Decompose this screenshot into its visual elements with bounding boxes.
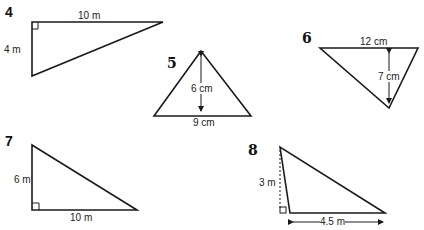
label-5-base: 9 cm: [193, 117, 215, 128]
label-8-height: 3 m: [259, 177, 276, 188]
triangle-worksheet: 4 5 6 7 8 10 m 4 m 6 cm 9 cm 12 cm 7 cm …: [0, 0, 424, 230]
label-5-height: 6 cm: [191, 83, 213, 94]
label-8-base: 4.5 m: [320, 216, 345, 227]
problem-number-4: 4: [5, 4, 13, 20]
label-4-left: 4 m: [4, 44, 21, 55]
triangle-4: [32, 22, 163, 76]
label-7-base: 10 m: [70, 212, 92, 223]
triangle-drawings: [0, 0, 424, 230]
problem-number-8: 8: [248, 142, 258, 158]
label-6-top: 12 cm: [360, 36, 387, 47]
label-4-top: 10 m: [78, 10, 100, 21]
problem-number-5: 5: [167, 55, 177, 71]
triangle-7: [32, 145, 137, 210]
label-6-height: 7 cm: [378, 71, 400, 82]
problem-number-6: 6: [302, 30, 312, 46]
triangle-8: [280, 147, 385, 222]
triangle-6: [320, 48, 418, 108]
problem-number-7: 7: [5, 133, 13, 149]
label-7-left: 6 m: [14, 174, 31, 185]
